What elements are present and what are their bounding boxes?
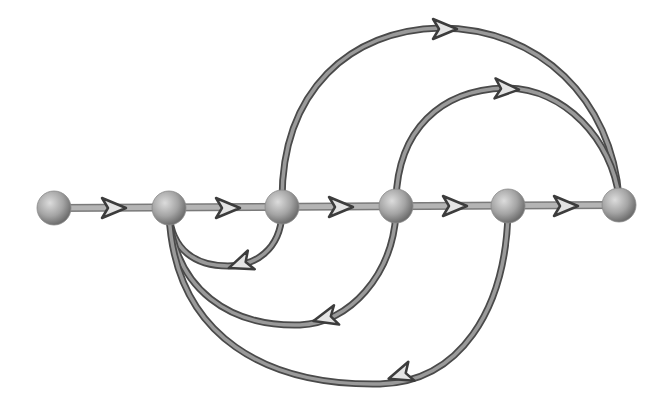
feedforward-arc-n3-n6 xyxy=(282,28,619,200)
node-n2 xyxy=(152,191,186,225)
feedback-arc-n3-n2-outline xyxy=(169,214,282,266)
node-n6 xyxy=(602,188,636,222)
feedback-arc-n3-n2 xyxy=(169,214,282,266)
feedback-arc-n5-n2-outline xyxy=(169,214,508,384)
node-n4 xyxy=(379,189,413,223)
signal-flow-graph xyxy=(0,0,665,409)
feedforward-arc-n3-n6-outline xyxy=(282,28,619,200)
node-n3 xyxy=(265,190,299,224)
node-n1 xyxy=(37,191,71,225)
node-n5 xyxy=(491,189,525,223)
feedback-arc-n5-n2 xyxy=(169,214,508,384)
